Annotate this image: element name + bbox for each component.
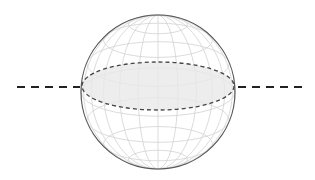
sphere-diagram: [0, 0, 315, 180]
equatorial-plane: [82, 62, 234, 110]
